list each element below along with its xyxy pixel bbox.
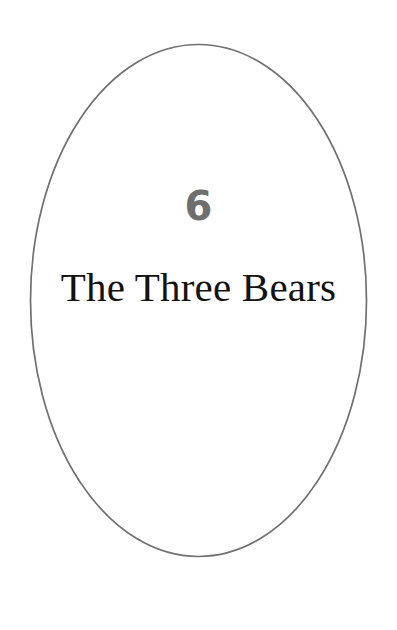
chapter-number: 6	[0, 186, 397, 226]
chapter-title-page: 6 The Three Bears	[0, 0, 397, 630]
chapter-heading-block: 6 The Three Bears	[0, 0, 397, 630]
chapter-title: The Three Bears	[0, 266, 397, 309]
